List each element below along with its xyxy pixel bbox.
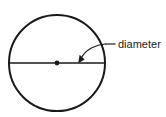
leader-arrowhead-icon xyxy=(78,55,84,63)
diameter-label: diameter xyxy=(118,38,161,50)
center-point-dot xyxy=(55,61,60,66)
diagram-canvas: diameter xyxy=(0,0,166,117)
circle-diameter-figure: diameter xyxy=(0,0,166,117)
